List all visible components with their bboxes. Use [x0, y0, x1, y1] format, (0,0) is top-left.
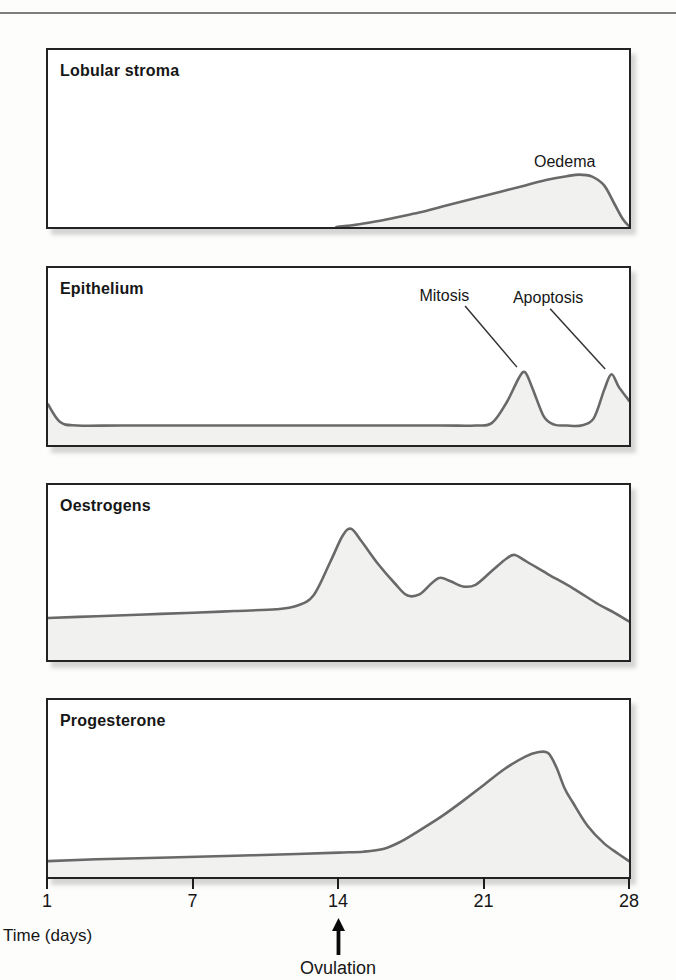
panel-oestrogens: Oestrogens: [46, 483, 631, 662]
axis-tick-day-14: [337, 877, 339, 889]
axis-tick-label-day-14: 14: [328, 891, 348, 912]
axis-tick-label-day-7: 7: [187, 891, 197, 912]
annotation-leader-line: [465, 306, 517, 367]
ovulation-marker: Ovulation: [300, 918, 376, 979]
panel-epithelium: Epithelium MitosisApoptosis: [46, 266, 631, 447]
figure-page: Lobular stroma Oedema Epithelium Mitosis…: [0, 0, 676, 980]
axis-tick-day-1: [46, 877, 48, 889]
annotation-mitosis: Mitosis: [419, 287, 469, 305]
panel-title-epithelium: Epithelium: [60, 280, 144, 298]
annotation-oedema: Oedema: [534, 153, 595, 171]
panel-title-lobular-stroma: Lobular stroma: [60, 62, 179, 80]
axis-tick-label-day-1: 1: [42, 891, 52, 912]
time-axis: 17142128: [47, 877, 629, 917]
annotation-apoptosis: Apoptosis: [513, 289, 583, 307]
panel-lobular-stroma: Lobular stroma Oedema: [46, 48, 631, 229]
ovulation-label: Ovulation: [300, 958, 376, 979]
annotation-leader-line: [550, 309, 605, 369]
curve-fill: [48, 529, 629, 660]
ovulation-arrow-icon: [331, 918, 344, 955]
axis-tick-label-day-21: 21: [473, 891, 493, 912]
curve-fill: [336, 175, 629, 227]
axis-tick-label-day-28: 28: [619, 891, 639, 912]
time-axis-label: Time (days): [3, 926, 92, 946]
panel-progesterone: Progesterone: [46, 698, 631, 879]
axis-tick-day-28: [628, 877, 630, 889]
axis-tick-day-21: [483, 877, 485, 889]
panel-title-progesterone: Progesterone: [60, 712, 166, 730]
axis-tick-day-7: [192, 877, 194, 889]
panel-title-oestrogens: Oestrogens: [60, 497, 151, 515]
page-top-rule: [0, 12, 676, 14]
curve-fill: [48, 372, 629, 445]
